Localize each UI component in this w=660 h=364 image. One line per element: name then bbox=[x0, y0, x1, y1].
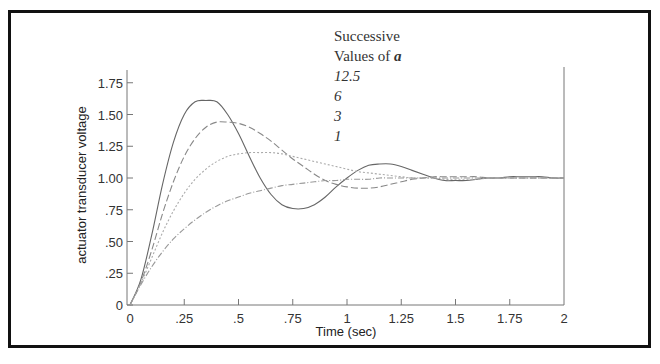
x-tick-label: .5 bbox=[233, 311, 244, 326]
legend-entry: 3 bbox=[334, 106, 402, 126]
legend: Successive Values of a 12.5 6 3 1 bbox=[334, 26, 402, 146]
series-line-a-1 bbox=[130, 178, 564, 305]
x-axis-title: Time (sec) bbox=[316, 324, 377, 339]
x-tick-label: 1.25 bbox=[389, 311, 414, 326]
legend-entry: 6 bbox=[334, 86, 402, 106]
legend-entry: 12.5 bbox=[334, 66, 402, 86]
x-tick-label: 2 bbox=[560, 311, 567, 326]
y-tick-label: .25 bbox=[105, 266, 123, 281]
y-tick-label: 1.00 bbox=[98, 171, 123, 186]
y-tick-label: 1.50 bbox=[98, 108, 123, 123]
series-line-a-3 bbox=[130, 153, 564, 305]
series-line-a-6 bbox=[130, 122, 564, 305]
x-tick-label: .25 bbox=[175, 311, 193, 326]
legend-symbol: a bbox=[394, 48, 402, 64]
legend-title-line2: Values of a bbox=[334, 46, 402, 66]
legend-title-text: Values of bbox=[334, 48, 390, 64]
y-tick-label: 0 bbox=[116, 298, 123, 313]
line-chart: 0.25.50.751.001.251.501.750.25.5.7511.25… bbox=[0, 0, 660, 364]
legend-title-line1: Successive bbox=[334, 26, 402, 46]
y-tick-label: .75 bbox=[105, 203, 123, 218]
y-axis-title: actuator transducer voltage bbox=[74, 106, 89, 264]
x-tick-label: 0 bbox=[126, 311, 133, 326]
legend-entry: 1 bbox=[334, 126, 402, 146]
y-tick-label: 1.75 bbox=[98, 76, 123, 91]
y-tick-label: 1.25 bbox=[98, 139, 123, 154]
x-tick-label: 1.5 bbox=[446, 311, 464, 326]
x-tick-label: .75 bbox=[284, 311, 302, 326]
x-tick-label: 1.75 bbox=[497, 311, 522, 326]
y-tick-label: .50 bbox=[105, 235, 123, 250]
